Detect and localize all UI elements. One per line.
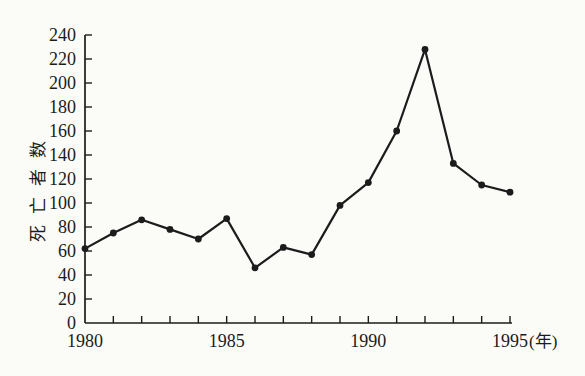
y-tick-label-120: 120 [49, 169, 76, 189]
data-point-1980 [82, 245, 89, 252]
data-point-1983 [167, 226, 174, 233]
y-tick-label-100: 100 [49, 193, 76, 213]
data-point-1985 [223, 215, 230, 222]
data-point-1982 [138, 216, 145, 223]
y-tick-label-240: 240 [49, 25, 76, 45]
x-axis-unit-label: (年) [529, 332, 557, 351]
y-tick-label-200: 200 [49, 73, 76, 93]
data-point-1989 [337, 202, 344, 209]
y-axis-title: 死亡者数 [24, 130, 49, 242]
line-chart-figure: 0204060801001201401601802002202401980198… [0, 0, 585, 376]
data-point-1991 [393, 128, 400, 135]
y-tick-label-60: 60 [58, 241, 76, 261]
x-tick-label-1980: 1980 [67, 331, 103, 351]
data-point-1988 [308, 251, 315, 258]
data-point-1981 [110, 230, 117, 237]
y-tick-label-220: 220 [49, 49, 76, 69]
data-point-1993 [450, 160, 457, 167]
data-point-1990 [365, 179, 372, 186]
data-point-1992 [422, 46, 429, 53]
data-point-1995 [507, 189, 514, 196]
data-series-line [85, 49, 510, 267]
y-tick-label-140: 140 [49, 145, 76, 165]
y-tick-label-80: 80 [58, 217, 76, 237]
y-tick-label-180: 180 [49, 97, 76, 117]
data-point-1994 [478, 182, 485, 189]
y-tick-label-40: 40 [58, 265, 76, 285]
x-tick-label-1990: 1990 [350, 331, 386, 351]
y-tick-label-20: 20 [58, 289, 76, 309]
data-point-1984 [195, 236, 202, 243]
x-tick-label-1985: 1985 [209, 331, 245, 351]
data-point-1986 [252, 264, 259, 271]
data-point-1987 [280, 244, 287, 251]
x-tick-label-1995: 1995 [492, 331, 528, 351]
chart-canvas: 0204060801001201401601802002202401980198… [0, 0, 585, 376]
y-tick-label-160: 160 [49, 121, 76, 141]
y-tick-label-0: 0 [67, 313, 76, 333]
